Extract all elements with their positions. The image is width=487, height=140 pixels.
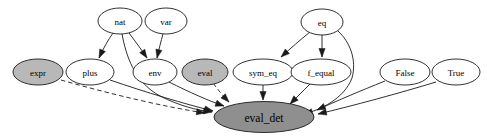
node-shape-False[interactable] bbox=[380, 59, 430, 85]
node-shape-eval[interactable] bbox=[182, 59, 228, 85]
node-eval_det[interactable]: eval_det bbox=[214, 102, 314, 133]
node-shape-env[interactable] bbox=[133, 59, 177, 85]
dependency-graph: natvareqexprplusenvevalsym_eqf_equalFals… bbox=[0, 0, 487, 140]
node-plus[interactable]: plus bbox=[66, 59, 114, 85]
arrowhead-plus-to-eval_det bbox=[204, 106, 213, 112]
node-shape-expr[interactable] bbox=[13, 59, 63, 85]
arrowhead-var-to-env bbox=[156, 49, 162, 58]
edge-expr-to-eval_det bbox=[61, 80, 205, 113]
arrowhead-eq-to-f_equal bbox=[319, 49, 325, 58]
node-eq[interactable]: eq bbox=[301, 9, 343, 35]
node-sym_eq[interactable]: sym_eq bbox=[233, 59, 293, 85]
node-f_equal[interactable]: f_equal bbox=[291, 59, 351, 85]
arrowhead-nat-to-env bbox=[140, 49, 147, 58]
node-True[interactable]: True bbox=[432, 59, 480, 85]
node-shape-sym_eq[interactable] bbox=[233, 59, 293, 85]
node-nat[interactable]: nat bbox=[98, 8, 142, 34]
arrowhead-sym_eq-to-eval_det bbox=[260, 92, 266, 101]
edge-env-to-eval_det bbox=[169, 82, 224, 106]
node-layer: natvareqexprplusenvevalsym_eqf_equalFals… bbox=[13, 8, 480, 133]
graph-canvas: natvareqexprplusenvevalsym_eqf_equalFals… bbox=[0, 0, 487, 140]
arrowhead-eval-to-eval_det bbox=[221, 94, 229, 102]
node-eval[interactable]: eval bbox=[182, 59, 228, 85]
edge-True-to-eval_det bbox=[318, 82, 436, 114]
node-shape-eval_det[interactable] bbox=[214, 102, 314, 133]
node-var[interactable]: var bbox=[145, 8, 187, 34]
arrowhead-nat-to-plus bbox=[99, 49, 105, 58]
node-shape-nat[interactable] bbox=[98, 8, 142, 34]
node-expr[interactable]: expr bbox=[13, 59, 63, 85]
node-shape-var[interactable] bbox=[145, 8, 187, 34]
node-shape-eq[interactable] bbox=[301, 9, 343, 35]
arrowhead-False-to-eval_det bbox=[317, 104, 326, 110]
node-shape-f_equal[interactable] bbox=[291, 59, 351, 85]
node-shape-True[interactable] bbox=[432, 59, 480, 85]
node-env[interactable]: env bbox=[133, 59, 177, 85]
node-shape-plus[interactable] bbox=[66, 59, 114, 85]
arrowhead-env-to-eval_det bbox=[215, 100, 224, 106]
node-False[interactable]: False bbox=[380, 59, 430, 85]
